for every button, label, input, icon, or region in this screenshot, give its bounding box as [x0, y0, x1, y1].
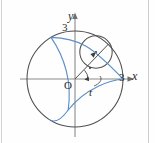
- t-leader-line: [94, 76, 101, 86]
- deltoid-curve-tail: [51, 110, 68, 121]
- y-axis-tick-label-3: 3: [62, 22, 68, 33]
- y-axis-label: y: [68, 10, 73, 22]
- tracing-point-dot: [89, 67, 91, 69]
- x-axis-tick-label-3: 3: [119, 72, 125, 83]
- x-axis-label: x: [132, 70, 137, 82]
- angle-parameter-label: t: [89, 87, 92, 98]
- deltoid-figure: y x 3 3 O t: [0, 0, 155, 143]
- origin-label: O: [64, 80, 72, 91]
